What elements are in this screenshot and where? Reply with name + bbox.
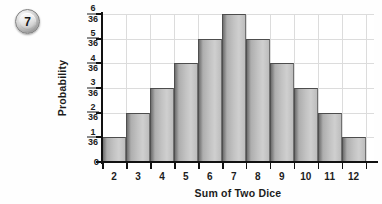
badge-inner-disc: 7 [19,13,36,30]
exercise-number-badge: 7 [15,9,40,34]
x-tick-mark [174,163,176,169]
x-tick-mark [294,163,296,169]
x-tick-mark [198,163,200,169]
x-axis-tick-labels: 23456789101112 [102,171,374,185]
x-tick-mark [318,163,320,169]
x-tick-label: 11 [324,171,335,182]
x-tick-mark [102,163,104,169]
x-tick-mark [126,163,128,169]
x-tick-label: 9 [279,171,285,182]
x-tick-mark [222,163,224,169]
x-axis-title: Sum of Two Dice [102,187,374,199]
x-tick-label: 5 [183,171,189,182]
badge-number-label: 7 [24,16,31,28]
x-tick-label: 8 [255,171,261,182]
x-tick-mark [366,163,368,169]
x-tick-label: 4 [159,171,165,182]
x-tick-label: 10 [300,171,311,182]
x-tick-mark [246,163,248,169]
x-tick-label: 3 [135,171,141,182]
x-tick-mark [150,163,152,169]
x-tick-label: 2 [111,171,117,182]
x-tick-label: 12 [348,171,359,182]
x-tick-mark [342,163,344,169]
x-tick-mark [270,163,272,169]
x-tick-label: 7 [231,171,237,182]
probability-histogram: Probability 0136236336436536636 23456789… [55,8,377,200]
x-tick-label: 6 [207,171,213,182]
